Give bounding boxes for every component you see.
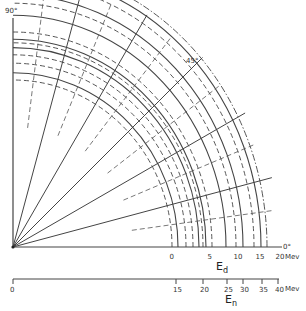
- ed-tick-label: 20: [276, 253, 285, 261]
- label-0deg: 0°: [283, 243, 291, 251]
- energy-arc-solid: [13, 0, 243, 247]
- en-axis-ticks: 0152025303540: [10, 279, 284, 294]
- ed-tick-label: 10: [234, 253, 243, 261]
- dashed-radial-53deg: [85, 38, 170, 151]
- ed-tick-label: 0: [170, 253, 174, 261]
- energy-arc-dash: [13, 0, 254, 247]
- dashed-radial-83deg: [28, 0, 45, 128]
- en-tick-label: 20: [200, 286, 209, 294]
- angle-radials: [13, 0, 272, 247]
- ed-tick-label: 15: [256, 253, 265, 261]
- energy-arc-dash: [13, 43, 203, 247]
- energy-arc-solid: [13, 73, 178, 247]
- energy-arc-dash: [13, 55, 193, 247]
- ed-axis-ticks: 05101520: [170, 253, 285, 261]
- ed-tick-label: 5: [208, 253, 212, 261]
- kinematics-polar-diagram: 90° 45° 0° 05101520 Ed Mev 0152025303540…: [0, 0, 306, 311]
- en-tick-label: 35: [259, 286, 268, 294]
- en-tick-label: 0: [10, 286, 14, 294]
- radial-line-45deg: [13, 57, 203, 247]
- ed-axis-unit: Mev: [285, 253, 300, 261]
- en-axis-title: En: [225, 293, 237, 308]
- energy-arc-solid: [13, 48, 199, 247]
- label-90deg: 90°: [5, 7, 17, 15]
- origin-point: [11, 245, 14, 248]
- en-axis-unit: Mev: [285, 285, 300, 293]
- energy-arcs: [13, 0, 267, 247]
- en-tick-label: 15: [173, 286, 182, 294]
- en-tick-label: 30: [240, 286, 249, 294]
- ed-axis-title: Ed: [216, 260, 228, 275]
- energy-arc-dash: [13, 63, 186, 247]
- en-tick-label: 40: [275, 286, 284, 294]
- radial-line-75deg: [13, 0, 82, 247]
- dashed-radial-68deg: [58, 4, 111, 136]
- label-45deg: 45°: [186, 57, 198, 65]
- radial-line-60deg: [13, 15, 147, 247]
- energy-arc-dash: [13, 80, 172, 247]
- energy-arc-dash: [13, 32, 212, 247]
- radial-line-15deg: [13, 178, 272, 247]
